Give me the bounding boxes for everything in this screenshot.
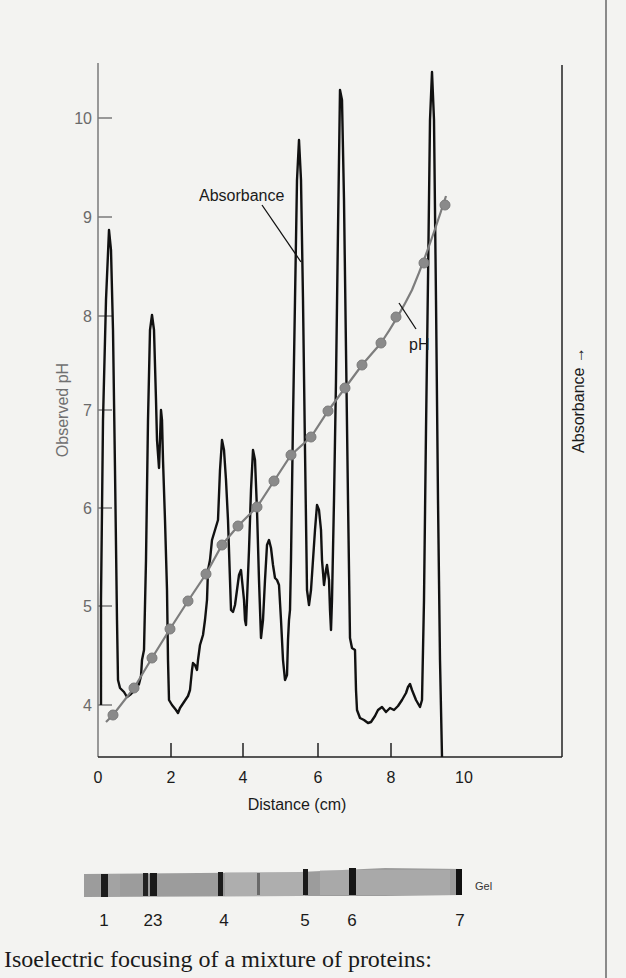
absorbance-annotation: Absorbance xyxy=(199,187,284,204)
y-axis-title: Observed pH xyxy=(54,363,71,457)
svg-text:23: 23 xyxy=(144,911,163,930)
svg-text:4: 4 xyxy=(83,697,92,714)
svg-text:10: 10 xyxy=(455,769,473,786)
svg-text:6: 6 xyxy=(83,500,92,517)
ph-line xyxy=(106,196,446,722)
figure-caption: Isoelectric focusing of a mixture of pro… xyxy=(4,946,432,973)
svg-text:5: 5 xyxy=(300,911,309,930)
y-tick-labels: 10 9 8 7 6 5 4 xyxy=(74,110,92,714)
svg-text:7: 7 xyxy=(455,911,464,930)
svg-text:8: 8 xyxy=(83,308,92,325)
x-axis-title: Distance (cm) xyxy=(248,796,347,813)
svg-text:0: 0 xyxy=(94,769,103,786)
svg-text:10: 10 xyxy=(74,110,92,127)
svg-text:4: 4 xyxy=(219,911,228,930)
x-ticks xyxy=(171,743,391,757)
page-right-border xyxy=(605,0,607,978)
right-y-axis-title: Absorbance → xyxy=(570,347,587,453)
ph-annotation: pH xyxy=(409,336,429,353)
svg-text:1: 1 xyxy=(99,911,108,930)
svg-text:5: 5 xyxy=(83,598,92,615)
svg-text:6: 6 xyxy=(347,911,356,930)
isoelectric-focusing-chart: 10 9 8 7 6 5 4 0 2 4 6 8 10 Distance (cm… xyxy=(0,0,626,978)
gel-band-labels: 1 23 4 5 6 7 xyxy=(99,911,464,930)
x-tick-labels: 0 2 4 6 8 10 xyxy=(94,769,473,786)
gel-strip: Gel xyxy=(84,868,492,897)
svg-text:2: 2 xyxy=(167,769,176,786)
svg-text:Gel: Gel xyxy=(475,880,492,892)
ph-leader-line xyxy=(399,303,416,329)
svg-text:9: 9 xyxy=(83,209,92,226)
svg-text:7: 7 xyxy=(83,402,92,419)
svg-text:6: 6 xyxy=(314,769,323,786)
svg-text:8: 8 xyxy=(387,769,396,786)
svg-text:4: 4 xyxy=(239,769,248,786)
